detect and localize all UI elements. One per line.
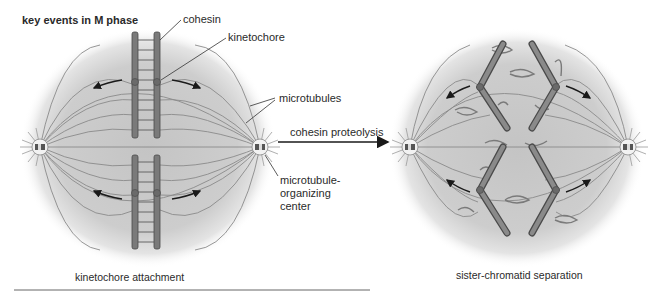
left-cell [20, 20, 280, 268]
mtoc-label-line1: microtubule- [280, 174, 341, 186]
diagram-title: key events in M phase [22, 14, 138, 26]
cohesin-label: cohesin [183, 13, 221, 25]
mtoc-label-line2: organizing [280, 187, 331, 199]
right-pole-mtoc [252, 139, 268, 155]
right-panel-caption: sister-chromatid separation [456, 269, 583, 281]
m-phase-diagram [0, 0, 657, 302]
right-cell [389, 28, 648, 268]
kinetochore-label: kinetochore [228, 31, 285, 43]
right-cell-left-pole [402, 139, 418, 155]
transition-label: cohesin proteolysis [290, 126, 384, 138]
mtoc-label-line3: center [280, 200, 311, 212]
left-panel-caption: kinetochore attachment [75, 271, 184, 283]
left-pole-mtoc [32, 139, 48, 155]
right-cell-right-pole [620, 139, 636, 155]
microtubules-label: microtubules [279, 92, 341, 104]
